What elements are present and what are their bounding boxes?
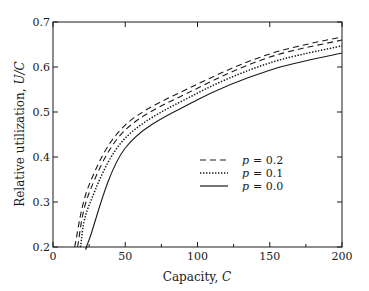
- x-axis-label: Capacity, C: [163, 270, 232, 284]
- y-tick-label: 0.7: [33, 16, 51, 29]
- y-axis-label: Relative utilization, U/C: [13, 61, 27, 207]
- y-tick-label: 0.6: [33, 61, 51, 74]
- legend-label-p00: p= 0.0: [242, 180, 283, 193]
- y-tick-label: 0.5: [33, 106, 51, 119]
- y-tick-label: 0.3: [33, 196, 51, 209]
- series-line-solid-3: [86, 53, 342, 249]
- series-line-dashed-1: [78, 40, 342, 247]
- x-tick-label: 0: [50, 250, 57, 263]
- legend: p= 0.2 p= 0.1 p= 0.0: [200, 154, 283, 193]
- y-tick-label: 0.4: [33, 151, 51, 164]
- y-tick-label: 0.2: [33, 241, 51, 254]
- series-layer: [75, 37, 342, 249]
- chart: 0501001502000.20.30.40.50.60.7 Capacity,…: [0, 0, 369, 291]
- series-line-dotted-2: [80, 46, 342, 247]
- x-tick-label: 100: [187, 250, 208, 263]
- x-tick-label: 150: [259, 250, 280, 263]
- legend-label-p02: p= 0.2: [242, 154, 283, 167]
- x-tick-label: 50: [118, 250, 132, 263]
- legend-label-p01: p= 0.1: [242, 167, 283, 180]
- x-tick-label: 200: [332, 250, 353, 263]
